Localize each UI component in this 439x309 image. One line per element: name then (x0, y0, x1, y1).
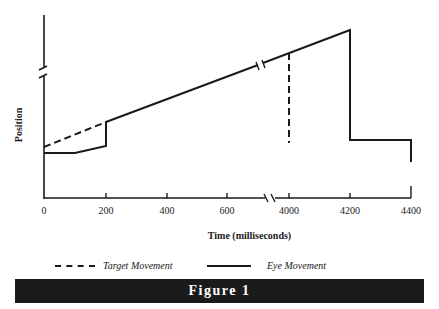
legend-item-target: Target Movement (55, 260, 173, 271)
dashed-line-swatch-icon (55, 265, 95, 267)
x-tick-label: 4000 (279, 205, 299, 216)
y-axis-label: Position (8, 85, 28, 165)
y-axis-label-text: Position (13, 108, 24, 142)
x-tick-label: 400 (160, 205, 175, 216)
x-axis (44, 186, 411, 202)
x-axis-label: Time (milliseconds) (0, 230, 439, 241)
series-eye-movement (44, 30, 411, 162)
figure-caption-bar: Figure 1 (15, 279, 424, 303)
x-tick-label: 600 (220, 205, 235, 216)
legend: Target Movement Eye Movement (0, 260, 439, 276)
x-tick-label: 4200 (340, 205, 360, 216)
legend-label-target: Target Movement (103, 260, 173, 271)
x-tick-label: 4400 (401, 205, 421, 216)
figure-caption: Figure 1 (189, 283, 251, 299)
x-tick-label: 0 (42, 205, 47, 216)
y-axis (39, 15, 47, 199)
x-tick-label: 200 (99, 205, 114, 216)
legend-item-eye: Eye Movement (207, 260, 326, 271)
solid-line-swatch-icon (207, 265, 251, 267)
legend-label-eye: Eye Movement (267, 260, 326, 271)
